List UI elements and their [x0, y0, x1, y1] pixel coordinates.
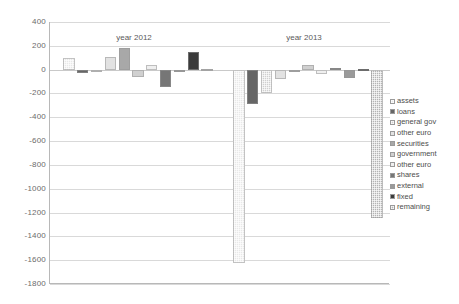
plot-area: [49, 22, 389, 284]
legend-item-securities[interactable]: securities: [390, 138, 459, 149]
legend-item-external[interactable]: external: [390, 181, 459, 192]
gridline: [50, 236, 390, 237]
y-axis-tick-label: -1600: [6, 256, 46, 264]
bar: [289, 70, 300, 72]
y-axis-tick-label: -1800: [6, 280, 46, 288]
bar: [188, 52, 199, 69]
bar: [91, 70, 102, 72]
legend-swatch-icon: [390, 194, 395, 199]
legend-label: loans: [397, 108, 415, 116]
bar: [330, 68, 341, 70]
bar: [105, 57, 116, 70]
legend-label: remaining: [397, 203, 430, 211]
legend-label: general gov: [397, 118, 436, 126]
y-axis-tick-label: 400: [6, 18, 46, 26]
legend-swatch-icon: [390, 184, 395, 189]
legend-swatch-icon: [390, 109, 395, 114]
legend-label: government: [397, 150, 437, 158]
y-axis-tick-label: -400: [6, 113, 46, 121]
bar: [344, 70, 355, 78]
gridline: [50, 260, 390, 261]
legend-item-other-euro[interactable]: other euro: [390, 160, 459, 171]
group-label-year-2012: year 2012: [49, 33, 219, 42]
gridline: [50, 22, 390, 23]
legend-swatch-icon: [390, 162, 395, 167]
chart-legend: assetsloansgeneral govother eurosecuriti…: [390, 96, 459, 213]
legend-swatch-icon: [390, 173, 395, 178]
legend-item-fixed[interactable]: fixed: [390, 191, 459, 202]
legend-item-shares[interactable]: shares: [390, 170, 459, 181]
y-axis-tick-label: 200: [6, 42, 46, 50]
bar: [174, 70, 185, 72]
y-axis-tick-label: -600: [6, 137, 46, 145]
legend-swatch-icon: [390, 120, 395, 125]
legend-swatch-icon: [390, 141, 395, 146]
y-axis-tick-label: -200: [6, 89, 46, 97]
y-axis-tick-label: -1400: [6, 232, 46, 240]
gridline: [50, 165, 390, 166]
bar-chart: 4002000-200-400-600-800-1000-1200-1400-1…: [0, 0, 459, 304]
legend-item-assets[interactable]: assets: [390, 96, 459, 107]
y-axis-tick-label: -1200: [6, 209, 46, 217]
bar: [77, 70, 88, 74]
bar: [302, 65, 313, 70]
gridline: [50, 189, 390, 190]
legend-item-remaining[interactable]: remaining: [390, 202, 459, 213]
gridline: [50, 284, 390, 285]
y-axis-tick-label: -1000: [6, 185, 46, 193]
gridline: [50, 141, 390, 142]
bar: [275, 70, 286, 80]
legend-label: other euro: [397, 161, 431, 169]
bar: [247, 70, 258, 104]
group-label-year-2013: year 2013: [219, 33, 389, 42]
bar: [371, 70, 382, 219]
bar: [119, 48, 130, 69]
legend-label: fixed: [397, 193, 413, 201]
gridline: [50, 46, 390, 47]
gridline: [50, 117, 390, 118]
gridline: [50, 93, 390, 94]
legend-label: other euro: [397, 129, 431, 137]
legend-label: shares: [397, 171, 420, 179]
y-axis-tick-label: 0: [6, 66, 46, 74]
bar: [63, 58, 74, 69]
legend-swatch-icon: [390, 131, 395, 136]
legend-label: external: [397, 182, 424, 190]
bar: [160, 70, 171, 88]
y-axis-tick-label: -800: [6, 161, 46, 169]
bar: [201, 69, 212, 71]
legend-item-loans[interactable]: loans: [390, 107, 459, 118]
legend-item-general-gov[interactable]: general gov: [390, 117, 459, 128]
legend-label: securities: [397, 140, 429, 148]
gridline: [50, 213, 390, 214]
bar: [316, 70, 327, 75]
bar: [358, 69, 369, 71]
legend-label: assets: [397, 97, 419, 105]
legend-item-other-euro[interactable]: other euro: [390, 128, 459, 139]
legend-item-government[interactable]: government: [390, 149, 459, 160]
legend-swatch-icon: [390, 99, 395, 104]
bar: [233, 70, 244, 263]
bar: [146, 65, 157, 69]
bar: [261, 70, 272, 94]
legend-swatch-icon: [390, 205, 395, 210]
legend-swatch-icon: [390, 152, 395, 157]
bar: [132, 70, 143, 77]
